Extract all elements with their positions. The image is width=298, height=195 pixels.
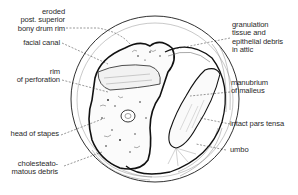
- manubrium-shape: [169, 69, 220, 148]
- label-manubrium-of-malleus: manubrium of malleus: [231, 79, 268, 96]
- label-head-of-stapes: head of stapes: [11, 130, 59, 138]
- label-eroded-bony-drum-rim: eroded post. superior bony drum rim: [18, 8, 65, 33]
- label-rim-of-perforation: rim of perforation: [17, 68, 60, 85]
- label-umbo: umbo: [230, 146, 249, 154]
- label-cholesteatomatous-debris: cholesteato- matous debris: [12, 160, 58, 177]
- label-intact-pars-tensa: intact pars tensa: [230, 120, 284, 128]
- umbo-rays: [168, 148, 196, 166]
- label-facial-canal: facial canal: [23, 39, 60, 47]
- label-granulation-tissue: granulation tissue and epithelial debris…: [232, 21, 283, 55]
